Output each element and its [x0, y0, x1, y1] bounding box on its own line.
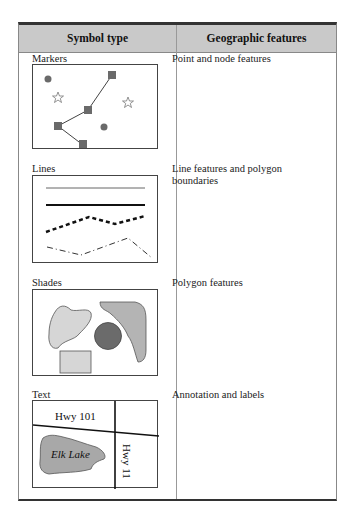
light-rectangle-icon — [60, 351, 91, 373]
shades-example — [32, 289, 158, 376]
text-graphic: Hwy 101 Elk Lake Hwy 11 — [33, 401, 159, 489]
star-marker-icon — [53, 92, 64, 103]
road-label-hwy-101: Hwy 101 — [55, 410, 96, 422]
row-label-lines: Lines — [32, 163, 55, 174]
square-marker-icon — [84, 106, 92, 114]
horizontal-road-icon — [33, 425, 159, 436]
feature-markers: Point and node features — [172, 53, 312, 65]
road-label-hwy-11: Hwy 11 — [121, 444, 133, 479]
markers-graphic — [33, 65, 159, 150]
light-polygon-icon — [49, 306, 92, 348]
circle-marker-icon — [45, 76, 52, 83]
row-label-shades: Shades — [32, 277, 62, 288]
text-example: Hwy 101 Elk Lake Hwy 11 — [32, 400, 158, 488]
row-label-text: Text — [32, 389, 51, 400]
table-header: Symbol type Geographic features — [19, 25, 336, 53]
square-marker-icon — [108, 71, 116, 79]
dashed-line-icon — [46, 216, 145, 232]
header-symbol-type: Symbol type — [19, 25, 176, 52]
feature-shades: Polygon features — [172, 277, 312, 289]
square-marker-icon — [79, 140, 87, 148]
lines-example — [32, 175, 158, 263]
markers-example — [32, 64, 158, 149]
lake-label-elk-lake: Elk Lake — [50, 448, 90, 460]
star-marker-icon — [123, 97, 134, 108]
square-marker-icon — [54, 122, 62, 130]
dark-circle-icon — [95, 323, 122, 350]
feature-text: Annotation and labels — [172, 389, 312, 401]
dash-dot-line-icon — [47, 238, 152, 258]
column-divider — [176, 25, 177, 499]
shades-graphic — [33, 290, 159, 377]
feature-lines: Line features and polygon boundaries — [172, 163, 312, 187]
lines-graphic — [33, 176, 159, 264]
circle-marker-icon — [101, 124, 108, 131]
header-geographic-features: Geographic features — [177, 25, 336, 52]
row-label-markers: Markers — [32, 53, 67, 64]
